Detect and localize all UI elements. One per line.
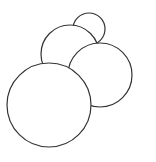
circle-large-front <box>7 63 91 147</box>
overlapping-circles-diagram <box>0 0 156 162</box>
